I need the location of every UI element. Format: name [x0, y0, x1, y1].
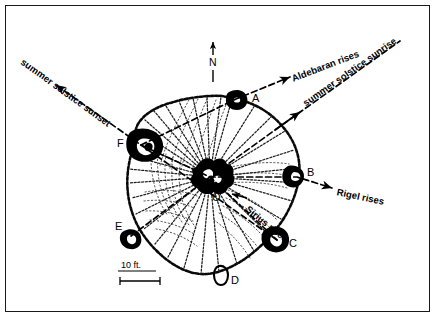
cairn-D [214, 266, 228, 285]
cairn-label-D: D [231, 275, 239, 286]
figure-page: A B C D E F O summer solstice sunset Ald… [0, 0, 437, 319]
cairn-label-B: B [307, 167, 314, 178]
cairn-label-C: C [289, 238, 297, 249]
north-label: N [209, 57, 217, 68]
cairn-A [226, 90, 248, 110]
scale-bar-label: 10 ft. [121, 261, 141, 270]
cairn-label-A: A [252, 93, 259, 104]
scale-bar-icon [118, 271, 160, 285]
cairn-label-F: F [117, 138, 124, 149]
cairn-label-E: E [115, 221, 122, 232]
cairn-E [120, 229, 142, 249]
cairn-label-O: O [212, 192, 221, 203]
